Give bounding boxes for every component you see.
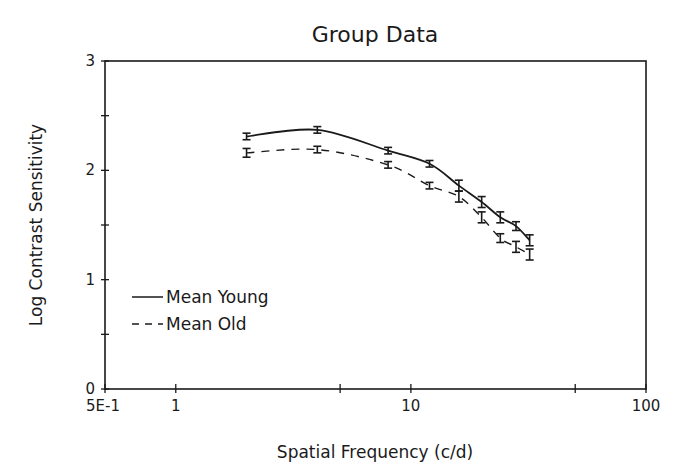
legend-label-young: Mean Young (166, 287, 269, 307)
y-tick-label: 2 (85, 161, 95, 179)
error-bar (384, 162, 392, 169)
legend-label-old: Mean Old (166, 314, 247, 334)
y-tick-label: 1 (85, 271, 95, 289)
axes: 01235E-1110100 (85, 52, 660, 415)
x-tick-label: 1 (171, 397, 181, 415)
error-bar (426, 182, 434, 189)
data-series (243, 127, 534, 260)
error-bar (455, 180, 463, 191)
chart: Group Data 01235E-1110100 Spatial Freque… (0, 0, 677, 476)
error-bar (526, 249, 534, 260)
contrast-sensitivity-plot: Group Data 01235E-1110100 Spatial Freque… (0, 0, 677, 476)
error-bar (313, 146, 321, 153)
y-tick-label: 0 (85, 380, 95, 398)
plot-frame (105, 61, 646, 389)
error-bar (512, 241, 520, 252)
x-axis-label: Spatial Frequency (c/d) (277, 442, 473, 462)
chart-title: Group Data (312, 22, 439, 47)
x-tick-label: 5E-1 (86, 397, 120, 415)
legend: Mean Young Mean Old (132, 287, 269, 334)
x-tick-label: 10 (401, 397, 420, 415)
error-bar (496, 212, 504, 223)
error-bar (478, 197, 486, 208)
y-axis-label: Log Contrast Sensitivity (26, 124, 46, 326)
x-tick-label: 100 (632, 397, 661, 415)
error-bar (455, 191, 463, 202)
y-tick-label: 3 (85, 52, 95, 70)
